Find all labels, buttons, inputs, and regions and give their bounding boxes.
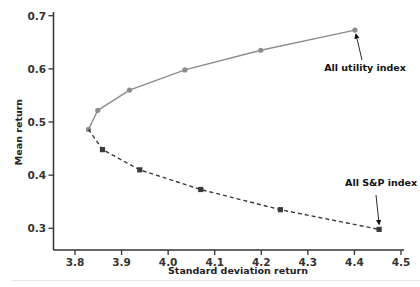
annotation-sp-index: All S&P index [345, 177, 417, 188]
annotation-utility-index: All utility index [324, 62, 406, 73]
bottom-divider [12, 280, 420, 281]
circle-marker [127, 88, 132, 93]
series-line [89, 30, 355, 129]
square-marker [198, 187, 203, 192]
x-axis: 3.83.94.04.14.24.34.44.5 Standard deviat… [54, 250, 411, 276]
square-marker [100, 147, 105, 152]
x-axis-title: Standard deviation return [168, 265, 308, 276]
x-tick-label: 3.9 [112, 256, 131, 268]
square-marker [137, 167, 142, 172]
circle-marker [182, 67, 187, 72]
x-tick-label: 4.4 [345, 256, 364, 268]
annotation-arrow [356, 34, 362, 60]
y-tick-label: 0.4 [27, 169, 46, 181]
square-marker [377, 227, 382, 232]
x-tick-label: 3.8 [66, 256, 85, 268]
y-tick-label: 0.6 [27, 63, 46, 75]
y-axis: 0.30.40.50.60.7 Mean return [13, 10, 54, 250]
series-line [89, 129, 380, 229]
series-sp [89, 129, 382, 232]
series-layer [86, 27, 382, 232]
x-tick-label: 4.5 [392, 256, 411, 268]
series-utility [86, 27, 358, 132]
frontier-chart: All utility indexAll S&P index 0.30.40.5… [0, 0, 420, 287]
annotation-arrow [376, 195, 379, 224]
y-axis-ticks: 0.30.40.50.60.7 [27, 10, 53, 235]
plot-area: All utility indexAll S&P index [86, 27, 417, 232]
annotation-layer: All utility indexAll S&P index [324, 34, 417, 224]
square-marker [278, 207, 283, 212]
circle-marker [258, 48, 263, 53]
circle-marker [95, 108, 100, 113]
circle-marker [352, 27, 357, 32]
y-tick-label: 0.5 [27, 116, 46, 128]
y-tick-label: 0.7 [27, 10, 46, 22]
y-tick-label: 0.3 [27, 222, 46, 234]
y-axis-title: Mean return [13, 99, 24, 165]
